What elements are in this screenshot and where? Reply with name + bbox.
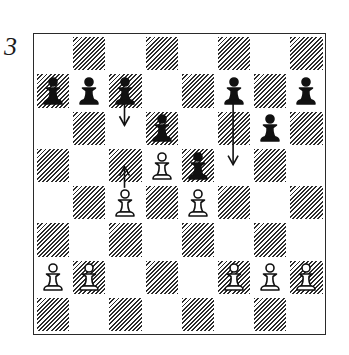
square-h8 [288,35,324,72]
square-d8 [144,35,180,72]
white-pawn-icon [221,262,247,292]
black-pawn-icon [40,76,66,106]
square-d6 [144,110,180,147]
square-f4 [216,184,252,221]
square-e1 [180,296,216,333]
square-d5 [144,147,180,184]
square-c6 [107,110,143,147]
square-e8 [180,35,216,72]
square-d2 [144,259,180,296]
square-e2 [180,259,216,296]
square-f2 [216,259,252,296]
square-e3 [180,221,216,258]
square-c8 [107,35,143,72]
black-pawn-icon [149,113,175,143]
square-h2 [288,259,324,296]
square-e5 [180,147,216,184]
square-e4 [180,184,216,221]
square-f8 [216,35,252,72]
white-pawn-icon [257,262,283,292]
square-c2 [107,259,143,296]
square-g8 [252,35,288,72]
square-f7 [216,72,252,109]
square-a7 [35,72,71,109]
square-h3 [288,221,324,258]
square-b4 [71,184,107,221]
square-f1 [216,296,252,333]
square-b1 [71,296,107,333]
white-pawn-icon [185,188,211,218]
white-pawn-icon [76,262,102,292]
square-h5 [288,147,324,184]
square-a4 [35,184,71,221]
square-c3 [107,221,143,258]
square-a5 [35,147,71,184]
square-b7 [71,72,107,109]
square-a2 [35,259,71,296]
square-f6 [216,110,252,147]
square-f3 [216,221,252,258]
square-h4 [288,184,324,221]
black-pawn-icon [257,113,283,143]
black-pawn-icon [293,76,319,106]
square-g4 [252,184,288,221]
square-d1 [144,296,180,333]
white-pawn-icon [112,188,138,218]
square-g2 [252,259,288,296]
square-d7 [144,72,180,109]
square-c4 [107,184,143,221]
square-h1 [288,296,324,333]
square-a1 [35,296,71,333]
square-a8 [35,35,71,72]
square-d3 [144,221,180,258]
square-h7 [288,72,324,109]
diagram-number: 3 [4,34,17,60]
square-b3 [71,221,107,258]
square-a6 [35,110,71,147]
square-b8 [71,35,107,72]
square-e6 [180,110,216,147]
square-g3 [252,221,288,258]
square-g1 [252,296,288,333]
square-g6 [252,110,288,147]
black-pawn-icon [185,151,211,181]
square-c7 [107,72,143,109]
black-pawn-icon [112,76,138,106]
square-a3 [35,221,71,258]
black-pawn-icon [76,76,102,106]
black-pawn-icon [221,76,247,106]
board-grid [35,35,325,333]
square-f5 [216,147,252,184]
square-c5 [107,147,143,184]
square-b5 [71,147,107,184]
white-pawn-icon [149,151,175,181]
chessboard [33,33,326,335]
white-pawn-icon [40,262,66,292]
square-d4 [144,184,180,221]
square-c1 [107,296,143,333]
square-g5 [252,147,288,184]
square-e7 [180,72,216,109]
square-b2 [71,259,107,296]
square-g7 [252,72,288,109]
square-h6 [288,110,324,147]
white-pawn-icon [293,262,319,292]
square-b6 [71,110,107,147]
